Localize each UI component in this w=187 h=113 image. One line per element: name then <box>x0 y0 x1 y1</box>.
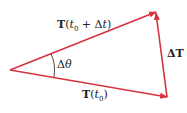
paren: ) <box>103 88 107 101</box>
plus-delta: + Δ <box>78 18 102 31</box>
diagram: T(t0 + Δt) Δθ ΔT T(t0) <box>0 0 187 113</box>
label-T: T <box>82 88 90 101</box>
label-delta-T: ΔT <box>167 47 184 60</box>
label-T: T <box>57 18 65 31</box>
angle-arc <box>51 54 55 77</box>
vector-delta-T <box>156 13 167 97</box>
theta: θ <box>65 58 72 71</box>
paren: ) <box>107 18 111 31</box>
delta: Δ <box>57 58 65 71</box>
label-top-vector: T(t0 + Δt) <box>57 18 111 33</box>
label-bottom-vector: T(t0) <box>82 88 108 103</box>
label-angle: Δθ <box>57 58 72 71</box>
